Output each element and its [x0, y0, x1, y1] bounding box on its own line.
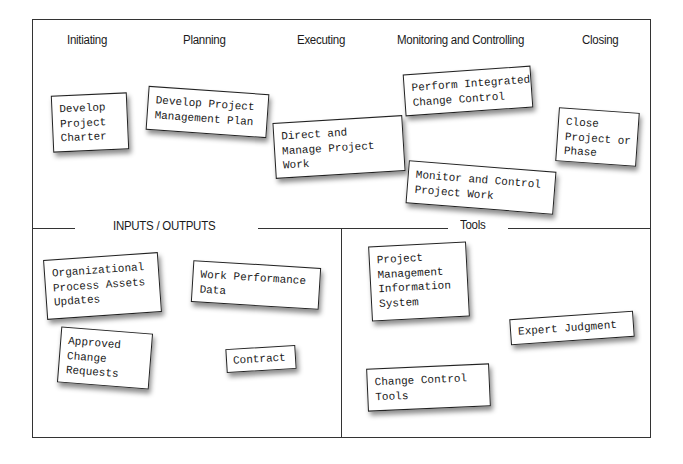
process-card-develop-project-charter: Develop Project Charter: [51, 92, 129, 152]
section-divider-vertical: [341, 228, 342, 438]
tool-card-change-control-tools: Change Control Tools: [366, 363, 491, 411]
process-card-close-project-phase: Close Project or Phase: [555, 107, 640, 167]
process-card-direct-manage-work: Direct and Manage Project Work: [272, 115, 405, 179]
phase-planning: Planning: [183, 33, 226, 47]
io-card-contract: Contract: [225, 345, 296, 373]
divider-left-stub: [33, 228, 75, 229]
io-card-opa-updates: Organizational Process Assets Updates: [43, 252, 162, 320]
process-card-perform-integrated-change-control: Perform Integrated Change Control: [403, 66, 534, 117]
phase-monitoring-controlling: Monitoring and Controlling: [397, 33, 524, 47]
io-card-approved-change-requests: Approved Change Requests: [57, 326, 153, 389]
phase-executing: Executing: [297, 33, 345, 47]
divider-mid-right: [508, 228, 651, 229]
section-title-tools: Tools: [460, 218, 485, 232]
process-card-develop-pm-plan: Develop Project Management Plan: [146, 86, 270, 138]
phase-initiating: Initiating: [67, 33, 107, 47]
phase-closing: Closing: [582, 33, 618, 47]
section-title-inputs-outputs: INPUTS / OUTPUTS: [113, 219, 215, 233]
divider-mid-left: [258, 228, 448, 229]
io-card-work-performance-data: Work Performance Data: [191, 260, 321, 310]
tool-card-pmis: Project Management Information System: [368, 241, 470, 321]
